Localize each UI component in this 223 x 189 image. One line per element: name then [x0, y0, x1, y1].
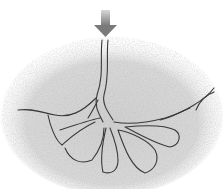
down-arrow-icon: [94, 10, 117, 37]
soil-mound: [0, 35, 223, 189]
illustration: [0, 0, 223, 189]
